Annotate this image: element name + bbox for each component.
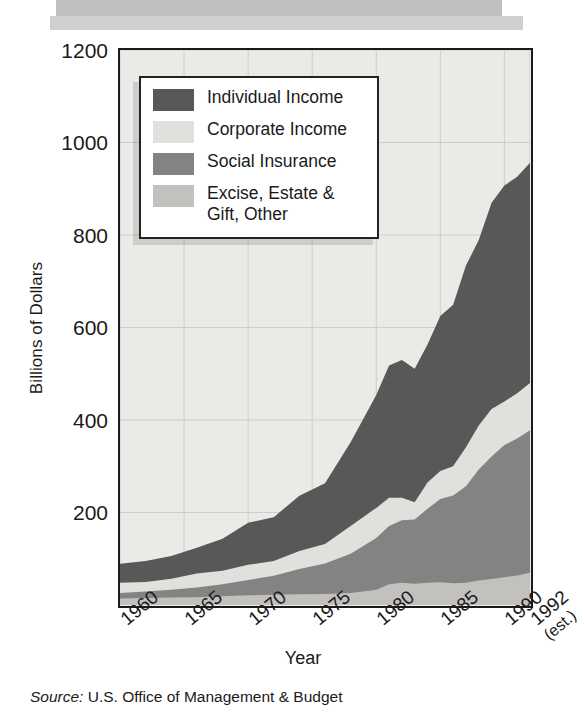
legend-item-individual-income: Individual Income	[153, 87, 365, 111]
source-value: U.S. Office of Management & Budget	[83, 688, 342, 705]
y-tick-label-600: 600	[0, 317, 108, 338]
legend-label-individual-income: Individual Income	[207, 87, 343, 108]
source-label: Source:	[30, 688, 83, 705]
source-note: Source: U.S. Office of Management & Budg…	[30, 688, 342, 706]
legend-swatch-individual-income	[153, 89, 194, 111]
legend-label-corporate-income: Corporate Income	[207, 119, 347, 140]
legend-swatch-excise-estate-gift-other	[153, 185, 194, 207]
chart-legend: Individual IncomeCorporate IncomeSocial …	[139, 76, 379, 239]
legend-item-corporate-income: Corporate Income	[153, 119, 365, 143]
y-tick-label-400: 400	[0, 410, 108, 431]
legend-item-excise-estate-gift-other: Excise, Estate & Gift, Other	[153, 183, 365, 225]
y-tick-label-1200: 1200	[0, 40, 108, 61]
stacked-area-chart-figure: Billions of Dollars 12001000800600400200…	[0, 0, 584, 713]
legend-swatch-corporate-income	[153, 121, 194, 143]
legend-label-social-insurance: Social Insurance	[207, 151, 336, 172]
legend-label-excise-estate-gift-other: Excise, Estate & Gift, Other	[207, 183, 334, 225]
legend-swatch-social-insurance	[153, 153, 194, 175]
x-tick-label-estimate-note: (est.)	[539, 602, 584, 644]
y-tick-label-1000: 1000	[0, 132, 108, 153]
x-axis-title: Year	[0, 648, 584, 669]
y-tick-label-800: 800	[0, 225, 108, 246]
y-tick-label-200: 200	[0, 502, 108, 523]
legend-item-social-insurance: Social Insurance	[153, 151, 365, 175]
